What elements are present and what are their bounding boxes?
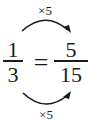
top-curved-arrow-icon	[22, 20, 71, 33]
right-denominator: 15	[54, 64, 88, 86]
top-multiplier-label: ×5	[33, 4, 57, 17]
bottom-multiplier-label: ×5	[34, 108, 58, 121]
right-numerator: 5	[54, 39, 88, 61]
left-denominator: 3	[3, 64, 23, 86]
equals-sign: =	[30, 50, 52, 76]
left-numerator: 1	[3, 39, 23, 61]
bottom-curved-arrow-icon	[23, 91, 71, 104]
